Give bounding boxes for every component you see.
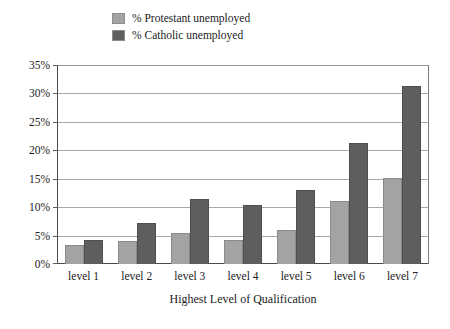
bar-group-level-5 <box>269 65 322 264</box>
bar-level-6-protestant <box>330 201 349 264</box>
plot-area: 0%5%10%15%20%25%30%35% <box>57 65 429 264</box>
y-axis-label-20%: 20% <box>29 144 50 156</box>
x-axis-label-level-4: level 4 <box>216 270 269 282</box>
bar-group-level-2 <box>111 65 164 264</box>
bar-level-4-protestant <box>224 240 243 264</box>
bar-group-level-4 <box>217 65 270 264</box>
y-axis-label-10%: 10% <box>29 201 50 213</box>
bar-level-4-catholic <box>243 205 262 264</box>
plot-inner: 0%5%10%15%20%25%30%35% <box>58 65 428 264</box>
bar-level-3-protestant <box>171 233 190 264</box>
x-axis-title: Highest Level of Qualification <box>57 292 429 307</box>
legend-label-protestant: % Protestant unemployed <box>132 12 250 24</box>
x-axis-label-level-2: level 2 <box>110 270 163 282</box>
bar-level-3-catholic <box>190 199 209 264</box>
bar-level-2-protestant <box>118 241 137 264</box>
legend-swatch-catholic <box>112 30 125 41</box>
bar-level-2-catholic <box>137 223 156 265</box>
bar-level-7-protestant <box>383 178 402 264</box>
legend-swatch-protestant <box>112 13 125 24</box>
x-axis-label-level-7: level 7 <box>376 270 429 282</box>
bar-level-1-protestant <box>65 245 84 264</box>
bar-group-level-6 <box>322 65 375 264</box>
bar-group-level-3 <box>164 65 217 264</box>
x-axis-label-level-5: level 5 <box>270 270 323 282</box>
legend-item-protestant: % Protestant unemployed <box>112 11 250 25</box>
bar-series-layer <box>58 65 428 264</box>
bar-level-5-catholic <box>296 190 315 264</box>
x-axis-label-level-3: level 3 <box>163 270 216 282</box>
x-axis-tick-labels: level 1level 2level 3level 4level 5level… <box>57 270 429 282</box>
bar-level-1-catholic <box>84 240 103 264</box>
bar-group-level-7 <box>375 65 428 264</box>
chart-legend: % Protestant unemployed % Catholic unemp… <box>112 11 250 42</box>
bar-group-level-1 <box>58 65 111 264</box>
bar-level-6-catholic <box>349 143 368 264</box>
x-axis-label-level-6: level 6 <box>323 270 376 282</box>
y-axis-label-0%: 0% <box>35 258 50 270</box>
bar-chart-figure: % Protestant unemployed % Catholic unemp… <box>0 0 450 329</box>
legend-label-catholic: % Catholic unemployed <box>132 29 243 41</box>
y-axis-label-30%: 30% <box>29 87 50 99</box>
y-axis-label-5%: 5% <box>35 230 50 242</box>
y-axis-label-35%: 35% <box>29 59 50 71</box>
bar-level-7-catholic <box>402 86 421 264</box>
legend-item-catholic: % Catholic unemployed <box>112 28 250 42</box>
bar-level-5-protestant <box>277 230 296 264</box>
x-axis-label-level-1: level 1 <box>57 270 110 282</box>
y-axis-label-15%: 15% <box>29 173 50 185</box>
y-axis-label-25%: 25% <box>29 116 50 128</box>
